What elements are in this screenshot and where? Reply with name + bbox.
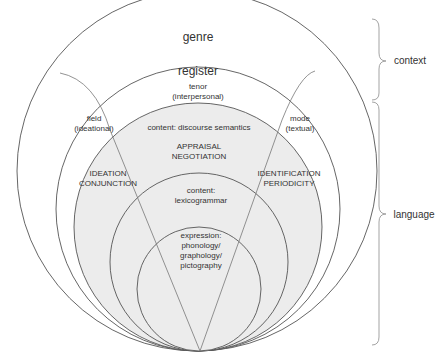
phonology-label: phonology/ (181, 241, 221, 250)
negotiation-label: NEGOTIATION (172, 152, 227, 161)
language-label: language (393, 209, 435, 220)
mode-sub-label: (textual) (286, 124, 315, 133)
context-bracket (372, 19, 386, 100)
expression-label: expression: (181, 231, 222, 240)
identification-label: IDENTIFICATION (258, 169, 321, 178)
genre-label: genre (183, 30, 214, 44)
conjunction-label: CONJUNCTION (79, 179, 137, 188)
mode-label: mode (290, 114, 311, 123)
appraisal-label: APPRAISAL (177, 142, 222, 151)
context-label: context (394, 55, 426, 66)
lexicogrammar-content-label: content: (187, 186, 215, 195)
tenor-label: tenor (189, 82, 208, 91)
pictography-label: pictography (180, 261, 221, 270)
tenor-sub-label: (interpersonal) (172, 92, 224, 101)
field-sub-label: (ideational) (74, 124, 114, 133)
field-label: field (87, 114, 102, 123)
register-label: register (178, 64, 218, 78)
ideation-label: IDEATION (89, 169, 126, 178)
discourse-semantics-label: content: discourse semantics (147, 123, 250, 132)
lexicogrammar-label: lexicogrammar (175, 196, 228, 205)
periodicity-label: PERIODICITY (263, 179, 315, 188)
stratification-diagram: genre register tenor (interpersonal) fie… (0, 0, 443, 362)
graphology-label: graphology/ (180, 251, 223, 260)
